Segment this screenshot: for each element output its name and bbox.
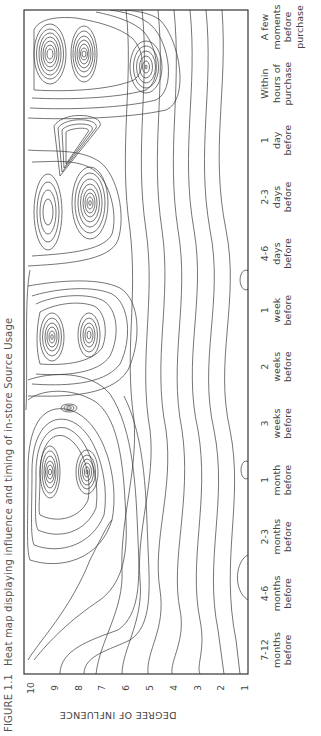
figure-caption: FIGURE 1.1 Heat map displaying influence…	[3, 318, 14, 732]
contour-lines	[26, 10, 252, 674]
svg-text:months: months	[271, 519, 282, 555]
y-tick-label: 9	[50, 685, 60, 691]
x-category-label: A fewmomentsbeforepurchase	[259, 5, 305, 50]
x-category-label: 2weeksbefore	[259, 351, 293, 382]
svg-text:months: months	[271, 575, 282, 611]
x-category-label: 4-6monthsbefore	[259, 575, 293, 611]
y-tick-label: 8	[74, 685, 84, 691]
svg-text:2-3: 2-3	[259, 189, 270, 205]
svg-text:1: 1	[259, 477, 270, 483]
svg-text:A few: A few	[259, 14, 270, 41]
svg-text:Within: Within	[259, 69, 270, 99]
svg-text:before: before	[282, 578, 293, 609]
x-category-label: 1monthbefore	[259, 465, 293, 496]
y-tick-label: 10	[26, 682, 36, 694]
svg-text:before: before	[282, 635, 293, 666]
svg-text:before: before	[282, 238, 293, 269]
y-tick-label: 1	[240, 685, 250, 691]
x-axis-categories: 7-12monthsbefore4-6monthsbefore2-3months…	[259, 5, 305, 668]
svg-text:before: before	[282, 521, 293, 552]
svg-text:hours of: hours of	[271, 64, 282, 104]
peak-cluster-1-month	[28, 375, 150, 674]
svg-text:7-12: 7-12	[259, 639, 270, 661]
svg-text:weeks: weeks	[271, 352, 282, 382]
svg-text:before: before	[282, 125, 293, 156]
svg-text:before: before	[282, 12, 293, 43]
x-category-label: 1weekbefore	[259, 295, 293, 326]
svg-text:1: 1	[259, 307, 270, 313]
svg-text:month: month	[271, 465, 282, 496]
figure-title: Heat map displaying influence and timing…	[3, 318, 14, 666]
x-category-label: 3weeksbefore	[259, 408, 293, 439]
svg-text:day: day	[271, 131, 282, 149]
svg-text:4-6: 4-6	[259, 586, 270, 602]
y-tick-label: 6	[121, 685, 131, 691]
svg-text:before: before	[282, 181, 293, 212]
x-category-label: 4-6daysbefore	[259, 238, 293, 269]
x-category-label: Withinhours ofpurchase	[259, 62, 293, 106]
svg-text:before: before	[282, 465, 293, 496]
y-tick-label: 4	[169, 685, 179, 691]
svg-text:4-6: 4-6	[259, 246, 270, 262]
svg-text:purchase: purchase	[294, 5, 305, 49]
x-category-label: 7-12monthsbefore	[259, 632, 293, 668]
x-category-label: 2-3daysbefore	[259, 181, 293, 212]
svg-text:2-3: 2-3	[259, 529, 270, 545]
svg-text:purchase: purchase	[282, 62, 293, 106]
svg-text:moments: moments	[271, 5, 282, 50]
y-tick-label: 5	[145, 685, 155, 691]
svg-text:before: before	[282, 351, 293, 382]
y-tick-label: 3	[193, 685, 203, 691]
svg-text:months: months	[271, 632, 282, 668]
y-tick-label: 2	[216, 685, 226, 691]
y-axis-ticks: 10987654321	[26, 682, 250, 694]
svg-text:days: days	[271, 186, 282, 208]
peak-cluster-days	[28, 115, 121, 266]
figure-number: FIGURE 1.1	[3, 674, 14, 732]
svg-text:week: week	[271, 297, 282, 322]
heatmap-figure: FIGURE 1.1 Heat map displaying influence…	[0, 0, 321, 736]
x-category-label: 2-3monthsbefore	[259, 519, 293, 555]
svg-text:before: before	[282, 408, 293, 439]
peak-cluster-3-weeks	[61, 404, 77, 412]
svg-text:3: 3	[259, 420, 270, 426]
plot-area	[24, 10, 252, 674]
peak-cluster-1-week	[26, 270, 137, 410]
y-axis-title: DEGREE OF INFLUENCE	[60, 710, 177, 721]
svg-text:weeks: weeks	[271, 408, 282, 438]
y-tick-label: 7	[97, 685, 107, 691]
svg-text:days: days	[271, 242, 282, 264]
x-category-label: 1daybefore	[259, 125, 293, 156]
svg-text:1: 1	[259, 137, 270, 143]
peak-cluster-moments	[28, 10, 180, 119]
svg-text:before: before	[282, 295, 293, 326]
svg-text:2: 2	[259, 364, 270, 370]
